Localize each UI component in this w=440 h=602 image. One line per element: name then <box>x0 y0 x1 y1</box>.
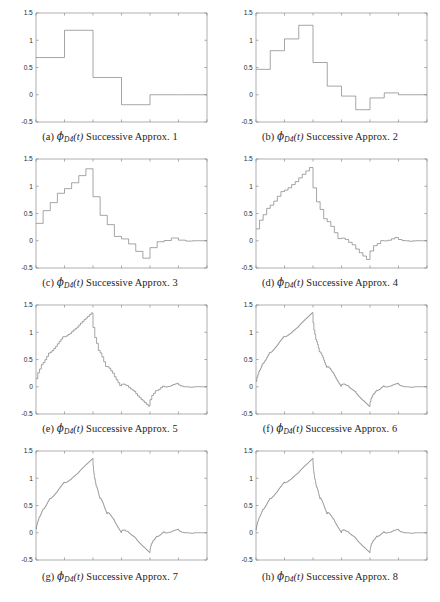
caption-iteration-number: 6 <box>392 423 397 434</box>
x-tick-label: 0 <box>256 270 260 271</box>
x-tick-label: 3 <box>423 270 427 271</box>
caption-subscript: D4 <box>64 281 73 290</box>
x-tick-label: 2.5 <box>174 124 183 125</box>
x-tick-label: 3 <box>203 124 207 125</box>
caption-iteration-number: 3 <box>172 277 177 288</box>
panel-b: 00.511.522.53-0.500.511.5(b) ϕD4(t) Succ… <box>220 0 440 146</box>
x-tick-label: 0.5 <box>60 270 69 271</box>
plot-h: 00.511.522.53-0.500.511.5 <box>220 438 440 563</box>
plot-f: 00.511.522.53-0.500.511.5 <box>220 292 440 417</box>
y-tick-label: 0 <box>29 383 33 390</box>
x-tick-label: 0.5 <box>280 562 289 563</box>
x-tick-label: 1.5 <box>117 124 126 125</box>
axis-frame <box>36 305 207 414</box>
x-tick-label: 0 <box>36 562 40 563</box>
axis-frame <box>36 13 207 122</box>
caption-subscript: D4 <box>64 135 73 144</box>
plot-area-d: 00.511.522.53-0.500.511.5 <box>220 146 440 271</box>
caption-argument: (t) <box>293 571 303 582</box>
figure-sheet: 00.511.522.53-0.500.511.5(a) ϕD4(t) Succ… <box>0 0 440 602</box>
x-tick-label: 2.5 <box>174 270 183 271</box>
caption-text: Successive Approx. <box>306 277 390 288</box>
y-tick-label: 1 <box>249 183 253 190</box>
axis-frame <box>256 451 427 560</box>
y-tick-label: 1.5 <box>244 155 253 162</box>
plot-area-a: 00.511.522.53-0.500.511.5 <box>0 0 220 125</box>
y-tick-label: 0 <box>249 237 253 244</box>
x-tick-label: 2 <box>148 416 152 417</box>
x-tick-label: 1.5 <box>337 270 346 271</box>
y-tick-label: 1.5 <box>244 9 253 16</box>
y-tick-label: 1 <box>29 183 33 190</box>
y-tick-label: 0 <box>249 91 253 98</box>
caption-phi-symbol: ϕ <box>57 276 64 288</box>
x-tick-label: 0 <box>36 124 40 125</box>
approximation-curve <box>256 313 427 407</box>
x-tick-label: 1.5 <box>337 124 346 125</box>
x-tick-label: 0.5 <box>280 416 289 417</box>
approximation-curve <box>36 169 207 258</box>
x-tick-label: 2 <box>148 124 152 125</box>
caption-iteration-number: 7 <box>173 571 178 582</box>
y-tick-label: -0.5 <box>21 410 33 417</box>
x-tick-label: 0 <box>36 416 40 417</box>
y-tick-label: 1 <box>249 37 253 44</box>
y-tick-label: 1.5 <box>24 155 33 162</box>
plot-area-h: 00.511.522.53-0.500.511.5 <box>220 438 440 563</box>
y-tick-label: 0.5 <box>244 210 253 217</box>
approximation-curve <box>256 25 427 109</box>
caption-text: Successive Approx. <box>86 277 170 288</box>
y-tick-label: 1 <box>249 329 253 336</box>
approximation-curve <box>256 168 427 260</box>
y-tick-label: 0.5 <box>244 502 253 509</box>
panel-e: 00.511.522.53-0.500.511.5(e) ϕD4(t) Succ… <box>0 292 220 438</box>
caption-argument: (t) <box>293 131 303 142</box>
x-tick-label: 2.5 <box>174 416 183 417</box>
y-tick-label: 0 <box>29 237 33 244</box>
panel-h: 00.511.522.53-0.500.511.5(h) ϕD4(t) Succ… <box>220 438 440 586</box>
plot-c: 00.511.522.53-0.500.511.5 <box>0 146 220 271</box>
x-tick-label: 0 <box>256 124 260 125</box>
axis-frame <box>36 451 207 560</box>
x-tick-label: 2 <box>368 562 372 563</box>
plot-area-f: 00.511.522.53-0.500.511.5 <box>220 292 440 417</box>
y-tick-label: 1.5 <box>244 301 253 308</box>
panel-caption-a: (a) ϕD4(t) Successive Approx. 1 <box>0 130 220 144</box>
plot-b: 00.511.522.53-0.500.511.5 <box>220 0 440 125</box>
caption-tag: (h) <box>262 571 274 582</box>
axis-frame <box>256 305 427 414</box>
x-tick-label: 1 <box>311 124 315 125</box>
y-tick-label: 1.5 <box>244 447 253 454</box>
caption-tag: (b) <box>262 131 274 142</box>
caption-text: Successive Approx. <box>306 571 390 582</box>
y-tick-label: 0 <box>29 91 33 98</box>
panel-f: 00.511.522.53-0.500.511.5(f) ϕD4(t) Succ… <box>220 292 440 438</box>
y-tick-label: 1 <box>249 475 253 482</box>
caption-argument: (t) <box>73 277 83 288</box>
y-tick-label: -0.5 <box>241 264 253 271</box>
x-tick-label: 0.5 <box>60 562 69 563</box>
x-tick-label: 1 <box>311 270 315 271</box>
x-tick-label: 0 <box>256 416 260 417</box>
y-tick-label: 1.5 <box>24 447 33 454</box>
caption-text: Successive Approx. <box>86 423 170 434</box>
caption-iteration-number: 4 <box>393 277 398 288</box>
approximation-curve <box>36 458 207 552</box>
y-tick-label: 1.5 <box>24 9 33 16</box>
panel-caption-g: (g) ϕD4(t) Successive Approx. 7 <box>0 570 220 584</box>
y-tick-label: 1 <box>29 329 33 336</box>
x-tick-label: 2 <box>368 270 372 271</box>
caption-text: Successive Approx. <box>305 423 389 434</box>
y-tick-label: 0 <box>249 383 253 390</box>
caption-tag: (e) <box>42 423 54 434</box>
panel-caption-f: (f) ϕD4(t) Successive Approx. 6 <box>220 422 440 436</box>
x-tick-label: 3 <box>423 562 427 563</box>
caption-argument: (t) <box>293 423 303 434</box>
plot-d: 00.511.522.53-0.500.511.5 <box>220 146 440 271</box>
y-tick-label: -0.5 <box>21 556 33 563</box>
plot-e: 00.511.522.53-0.500.511.5 <box>0 292 220 417</box>
approximation-curve <box>256 458 427 552</box>
caption-text: Successive Approx. <box>86 571 170 582</box>
plot-area-e: 00.511.522.53-0.500.511.5 <box>0 292 220 417</box>
y-tick-label: 0.5 <box>244 64 253 71</box>
